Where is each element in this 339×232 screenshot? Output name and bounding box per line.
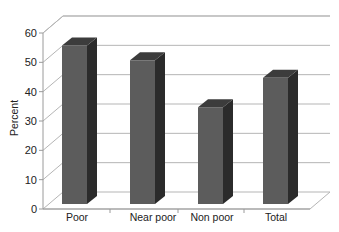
back-wall-top-edge <box>43 16 330 33</box>
bar-poor <box>62 38 97 204</box>
x-category-label: Near poor <box>130 211 177 223</box>
y-tick-label: 30 <box>25 115 37 127</box>
y-tick-label: 10 <box>25 174 37 186</box>
bar-chart: 0102030405060 PoorNear poorNon poorTotal… <box>0 0 339 232</box>
bar-non-poor <box>198 99 233 204</box>
y-tick-label: 20 <box>25 144 37 156</box>
y-tick-label: 60 <box>25 27 37 39</box>
bars <box>62 38 298 204</box>
y-tick-label: 50 <box>25 56 37 68</box>
y-tick-label: 40 <box>25 86 37 98</box>
x-category-label: Non poor <box>190 211 234 223</box>
x-category-label: Total <box>265 211 287 223</box>
y-tick-label: 0 <box>31 203 37 215</box>
x-category-labels: PoorNear poorNon poorTotal <box>66 211 287 223</box>
x-category-label: Poor <box>66 211 89 223</box>
y-axis-label: Percent <box>8 100 20 136</box>
y-tick-labels: 0102030405060 <box>25 27 37 215</box>
bar-near-poor <box>130 52 165 204</box>
bar-total <box>263 70 298 204</box>
